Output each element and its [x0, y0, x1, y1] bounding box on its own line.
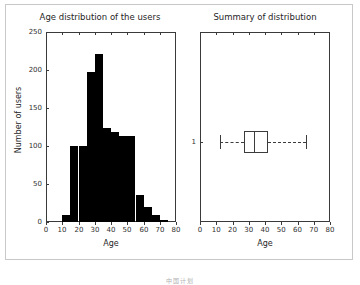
boxplot-axes [200, 32, 330, 222]
boxplot-xtick-10 [216, 222, 217, 225]
boxplot-ytick-1 [200, 142, 203, 143]
histogram-xtick-top-60 [144, 32, 145, 35]
boxplot-title: Summary of distribution [190, 12, 340, 22]
histogram-xtick-top-50 [127, 32, 128, 35]
boxplot-xtick-60 [298, 222, 299, 225]
boxplot-xtick-label-80: 80 [326, 226, 335, 234]
histogram-ytick-label-150: 150 [22, 104, 42, 112]
histogram-xtick-20 [79, 222, 80, 225]
histogram-xtick-40 [111, 222, 112, 225]
histogram-xtick-top-30 [95, 32, 96, 35]
boxplot-xtick-0 [200, 222, 201, 225]
figure-canvas: Age distribution of the users 0 50 100 1… [0, 0, 360, 285]
boxplot-xtick-label-10: 10 [212, 226, 221, 234]
histogram-bar [144, 207, 152, 222]
histogram-bar [160, 220, 168, 222]
histogram-ytick-label-200: 200 [22, 66, 42, 74]
histogram-ytick-label-100: 100 [22, 142, 42, 150]
histogram-bar [136, 195, 144, 222]
boxplot-xtick-70 [314, 222, 315, 225]
histogram-title: Age distribution of the users [20, 12, 180, 22]
histogram-xtick-70 [160, 222, 161, 225]
histogram-ytick-200 [46, 70, 49, 71]
histogram-xtick-label-10: 10 [58, 226, 67, 234]
boxplot-xtick-top-10 [216, 32, 217, 35]
histogram-xtick-0 [46, 222, 47, 225]
histogram-xtick-top-10 [62, 32, 63, 35]
boxplot-xtick-label-40: 40 [261, 226, 270, 234]
boxplot-xtick-50 [281, 222, 282, 225]
boxplot-panel: Summary of distribution 1 0 10 20 30 40 … [185, 0, 360, 265]
histogram-bar [87, 72, 95, 222]
histogram-xtick-10 [62, 222, 63, 225]
histogram-bar [127, 136, 135, 222]
boxplot-xtick-label-0: 0 [198, 226, 202, 234]
histogram-bar [111, 132, 119, 222]
histogram-xtick-60 [144, 222, 145, 225]
boxplot-xtick-40 [265, 222, 266, 225]
boxplot-xtick-top-40 [265, 32, 266, 35]
histogram-xtick-top-40 [111, 32, 112, 35]
boxplot-cap-high [306, 135, 307, 149]
histogram-yaxis-label: Number of users [14, 60, 23, 180]
boxplot-xtick-top-60 [298, 32, 299, 35]
boxplot-median-line [254, 131, 255, 153]
histogram-bar [103, 128, 111, 222]
boxplot-xtick-label-30: 30 [244, 226, 253, 234]
histogram-bar [152, 215, 160, 222]
boxplot-xaxis-label: Age [200, 239, 330, 248]
histogram-xaxis-label: Age [46, 239, 176, 248]
histogram-panel: Age distribution of the users 0 50 100 1… [0, 0, 185, 265]
boxplot-whisker-high [268, 142, 305, 143]
histogram-xtick-label-80: 80 [172, 226, 181, 234]
histogram-xtick-30 [95, 222, 96, 225]
boxplot-xtick-label-70: 70 [309, 226, 318, 234]
histogram-xtick-label-70: 70 [156, 226, 165, 234]
histogram-ytick-label-50: 50 [22, 180, 42, 188]
boxplot-xtick-top-30 [249, 32, 250, 35]
histogram-xtick-label-0: 0 [44, 226, 48, 234]
histogram-xtick-label-20: 20 [75, 226, 84, 234]
histogram-bar [79, 146, 87, 222]
histogram-xtick-80 [176, 222, 177, 225]
boxplot-xtick-label-20: 20 [228, 226, 237, 234]
histogram-xtick-label-60: 60 [140, 226, 149, 234]
histogram-bar [95, 54, 103, 222]
histogram-xtick-50 [127, 222, 128, 225]
histogram-ytick-100 [46, 146, 49, 147]
histogram-ytick-150 [46, 108, 49, 109]
histogram-xtick-label-30: 30 [91, 226, 100, 234]
histogram-bar [119, 136, 127, 222]
histogram-xtick-label-40: 40 [107, 226, 116, 234]
boxplot-xtick-30 [249, 222, 250, 225]
histogram-ytick-50 [46, 184, 49, 185]
boxplot-box [244, 131, 268, 153]
boxplot-xtick-top-70 [314, 32, 315, 35]
histogram-bar [62, 215, 70, 222]
histogram-bar [70, 146, 78, 222]
histogram-ytick-label-250: 250 [22, 28, 42, 36]
histogram-xtick-top-70 [160, 32, 161, 35]
boxplot-xtick-20 [233, 222, 234, 225]
histogram-xtick-label-50: 50 [123, 226, 132, 234]
watermark: 中国计划 [0, 276, 360, 285]
histogram-xtick-top-20 [79, 32, 80, 35]
boxplot-cap-low [220, 135, 221, 149]
boxplot-xtick-top-50 [281, 32, 282, 35]
histogram-ytick-250 [46, 32, 49, 33]
boxplot-whisker-low [220, 142, 244, 143]
boxplot-xtick-top-20 [233, 32, 234, 35]
boxplot-xtick-80 [330, 222, 331, 225]
histogram-ytick-label-0: 0 [22, 218, 42, 226]
boxplot-xtick-label-50: 50 [277, 226, 286, 234]
boxplot-xtick-label-60: 60 [293, 226, 302, 234]
boxplot-ytick-label-1: 1 [181, 138, 196, 146]
